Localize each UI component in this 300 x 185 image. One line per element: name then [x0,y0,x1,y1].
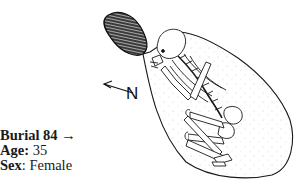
age-value: 35 [29,142,47,158]
age-label: Age: [0,142,29,158]
sex-value: : Female [22,157,72,173]
cropped-text-fragment [0,181,240,185]
arrow-right-icon: → [58,127,76,143]
age-line: Age: 35 [0,143,76,158]
hatched-stone-object [104,12,147,55]
sex-line: Sex: Female [0,158,76,173]
sex-label: Sex [0,157,22,173]
north-label: N [126,85,138,102]
burial-caption: Burial 84 → Age: 35 Sex: Female [0,128,76,173]
burial-label: Burial 84 [0,127,58,143]
burial-title-line: Burial 84 → [0,128,76,143]
